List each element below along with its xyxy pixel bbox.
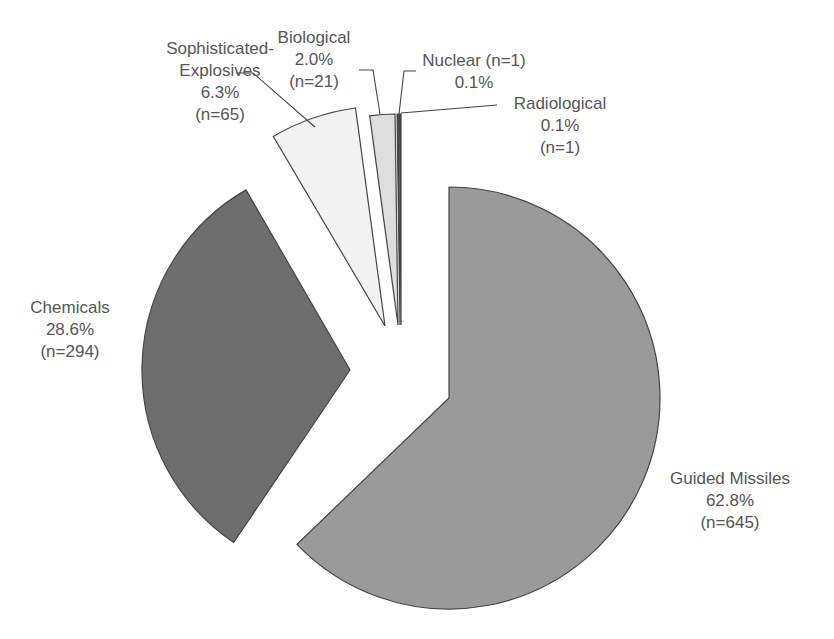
label-nuclear-pct: 0.1%	[412, 72, 536, 94]
pie-slice-chemicals	[142, 190, 350, 543]
label-guided-pct: 62.8%	[650, 490, 810, 512]
label-chemicals: Chemicals 28.6% (n=294)	[20, 297, 120, 363]
label-chemicals-pct: 28.6%	[20, 319, 120, 341]
label-guided-missiles: Guided Missiles 62.8% (n=645)	[650, 468, 810, 534]
label-biological-pct: 2.0%	[264, 49, 364, 71]
label-biological-n: (n=21)	[264, 71, 364, 93]
label-chemicals-name: Chemicals	[20, 297, 120, 319]
label-nuclear: Nuclear (n=1) 0.1%	[412, 50, 536, 94]
label-nuclear-name: Nuclear (n=1)	[412, 50, 536, 72]
label-sophexp-n: (n=65)	[150, 104, 290, 126]
label-radiological: Radiological 0.1% (n=1)	[500, 93, 620, 159]
exploded-pie-chart	[0, 0, 834, 639]
label-radiological-n: (n=1)	[500, 137, 620, 159]
label-biological-name: Biological	[264, 27, 364, 49]
label-radiological-name: Radiological	[500, 93, 620, 115]
pie-slices	[142, 108, 660, 609]
label-guided-name: Guided Missiles	[650, 468, 810, 490]
label-guided-n: (n=645)	[650, 512, 810, 534]
label-biological: Biological 2.0% (n=21)	[264, 27, 364, 93]
leader-line-radiological	[401, 105, 497, 113]
label-chemicals-n: (n=294)	[20, 341, 120, 363]
label-radiological-pct: 0.1%	[500, 115, 620, 137]
